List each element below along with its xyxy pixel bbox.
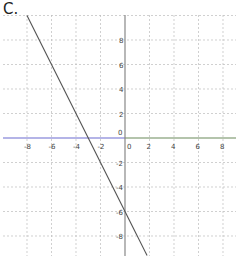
data-line	[27, 16, 147, 256]
y-tick-label: 4	[119, 86, 124, 94]
y-tick-label: 2	[119, 111, 123, 119]
x-tick-label: -4	[73, 143, 81, 151]
y-tick-label: -8	[116, 233, 123, 241]
x-tick-label: -8	[24, 143, 31, 151]
x-tick-label: 2	[147, 143, 151, 151]
x-tick-label: -6	[49, 143, 57, 151]
x-tick-label: -2	[98, 143, 105, 151]
x-tick-label: 4	[171, 143, 176, 151]
y-tick-label: -4	[116, 184, 124, 192]
y-tick-label: -2	[116, 160, 123, 168]
x-tick-label: 8	[220, 143, 224, 151]
x-tick-label: 6	[196, 143, 201, 151]
y-tick-label: 0	[118, 129, 122, 137]
x-tick-label: 0	[127, 143, 131, 151]
y-tick-label: 6	[119, 62, 124, 70]
chart-plot: -8-6-4-20246886420-2-4-6-8	[0, 0, 238, 256]
y-tick-label: -6	[116, 209, 124, 217]
y-tick-label: 8	[119, 37, 123, 45]
